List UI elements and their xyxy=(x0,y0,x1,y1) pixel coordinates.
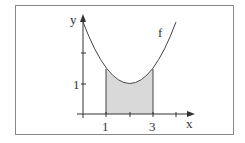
diagram: y x f 1 3 1 xyxy=(0,0,245,143)
x-axis-label: x xyxy=(186,116,193,131)
y-axis-arrow-icon xyxy=(80,14,86,22)
x-tick-label-1: 1 xyxy=(102,119,109,134)
x-tick-label-3: 3 xyxy=(149,119,156,134)
function-label: f xyxy=(158,25,163,40)
y-axis-label: y xyxy=(70,12,77,27)
y-tick-label-1: 1 xyxy=(73,77,80,92)
frame xyxy=(16,6,234,135)
